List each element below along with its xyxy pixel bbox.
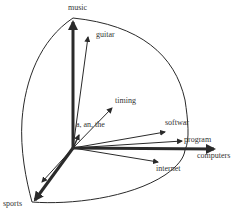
label-computers: computers: [197, 152, 230, 160]
label-program: program: [184, 136, 211, 144]
boundary-arc-music-sports: [22, 18, 73, 202]
axis-sports: [35, 148, 73, 200]
label-internet: internet: [156, 165, 180, 173]
vector-space-diagram: [0, 0, 244, 213]
vector-guitar: [73, 37, 88, 148]
label-music: music: [68, 4, 87, 12]
vector-internet: [73, 148, 158, 162]
axis-computers: [73, 148, 214, 149]
label-timing: timing: [115, 97, 136, 105]
vector-sports-term: [42, 148, 73, 182]
label-softwar: softwar: [165, 119, 189, 127]
label-sports: sports: [3, 200, 22, 208]
label-guitar: guitar: [96, 31, 115, 39]
label-a-an-the: a, an, the: [76, 121, 105, 129]
boundary-arc-sports-computers: [32, 150, 185, 203]
